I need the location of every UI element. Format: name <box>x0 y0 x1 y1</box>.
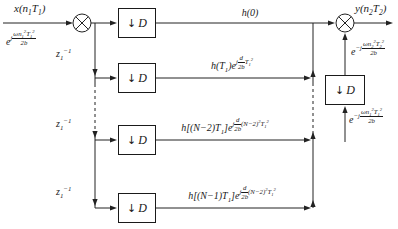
downsample-arrow-icon: ↓ <box>127 203 136 214</box>
decimator-box-chirp: ↓ D <box>325 75 365 105</box>
branch-gain-label-1: h(0) <box>242 7 259 19</box>
arrowhead-right-icon <box>328 20 335 25</box>
branch-wire-1 <box>156 20 335 25</box>
decimator-box-4: ↓ D <box>118 193 156 223</box>
branch-gain-label-3: h[(N−2)T1]ejd2b(N−2)2T12 <box>181 117 269 133</box>
output-chirp-label: e−jωn22T222b <box>351 41 385 57</box>
arrowhead-right-icon <box>304 205 311 210</box>
tap-wire-3 <box>95 137 117 142</box>
delay-label-1: z1−1 <box>56 48 71 60</box>
decimator-label: D <box>138 17 147 29</box>
chirp-to-multiplier-wire <box>342 33 347 75</box>
arrowhead-right-icon <box>304 137 311 142</box>
branch-wire-3 <box>156 137 311 142</box>
arrowhead-up-icon <box>310 200 315 207</box>
decimator-label: D <box>138 72 147 84</box>
decimator-box-2: ↓ D <box>118 63 156 93</box>
arrowhead-right-icon <box>110 75 117 80</box>
branch-wire-4 <box>156 205 311 210</box>
downsample-arrow-icon: ↓ <box>335 85 344 96</box>
arrowhead-up-icon <box>310 132 315 139</box>
downsample-arrow-icon: ↓ <box>127 73 136 84</box>
output-wire <box>354 20 393 25</box>
summing-wire <box>310 23 315 208</box>
decimator-label: D <box>346 84 355 96</box>
downsample-arrow-icon: ↓ <box>127 18 136 29</box>
arrowhead-down-icon <box>92 131 97 138</box>
output-multiplier-icon <box>336 14 354 32</box>
decimator-box-3: ↓ D <box>118 125 156 155</box>
arrowhead-right-icon <box>304 75 311 80</box>
chirp-transform-diagram: ↓ D ↓ D ↓ D ↓ D ↓ D x(n1T1) ejωn12T122b … <box>0 0 398 229</box>
input-signal-label: x(n1T1) <box>14 2 45 15</box>
arrowhead-up-icon <box>342 106 347 113</box>
arrowhead-right-icon <box>110 20 117 25</box>
delay-label-2: z1−1 <box>56 118 71 130</box>
chirp-to-decimator-wire <box>342 106 347 142</box>
decimator-label: D <box>138 134 147 146</box>
arrowhead-right-icon <box>110 205 117 210</box>
decimator-box-1: ↓ D <box>118 8 156 38</box>
downsample-arrow-icon: ↓ <box>127 135 136 146</box>
branch-gain-label-4: h[(N−1)T1]ejd2b(N−2)2T12 <box>188 185 276 201</box>
chirp-source-label: e−jωn12T122b <box>349 109 383 125</box>
delay-label-3: z1−1 <box>56 186 71 198</box>
arrowhead-right-icon <box>66 20 73 25</box>
arrowhead-down-icon <box>92 69 97 76</box>
delay-chain-wire <box>92 23 97 208</box>
input-multiplier-icon <box>73 14 91 32</box>
arrowhead-up-icon <box>342 33 347 40</box>
tap-wire-4 <box>95 205 117 210</box>
arrowhead-right-icon <box>110 137 117 142</box>
arrowhead-right-icon <box>386 20 393 25</box>
output-signal-label: y(n2T2) <box>355 2 386 15</box>
branch-gain-label-2: h(T1)ejd2bT12 <box>211 55 253 71</box>
branch-wire-2 <box>156 75 311 80</box>
decimator-label: D <box>138 202 147 214</box>
input-wire <box>3 20 73 25</box>
tap-wire-2 <box>95 75 117 80</box>
arrowhead-down-icon <box>92 199 97 206</box>
input-chirp-label: ejωn12T122b <box>6 31 36 47</box>
arrowhead-up-icon <box>310 70 315 77</box>
